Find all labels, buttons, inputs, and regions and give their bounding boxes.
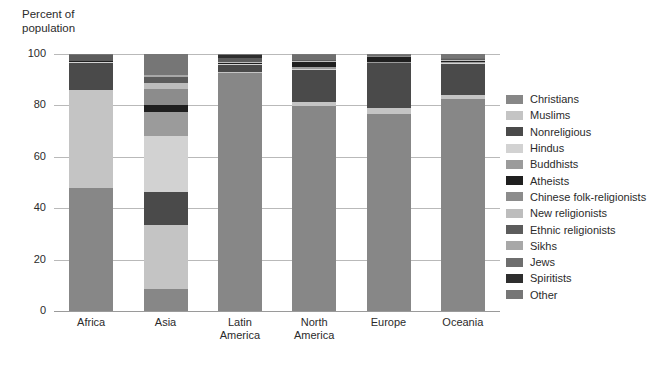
- legend-label: Ethnic religionists: [530, 224, 616, 236]
- legend-label: Christians: [530, 93, 579, 105]
- bar-group-europe[interactable]: Europe: [367, 54, 411, 311]
- legend-item-ethnic-religionists[interactable]: Ethnic religionists: [506, 221, 652, 237]
- x-axis-label: Europe: [367, 316, 411, 329]
- legend-item-christians[interactable]: Christians: [506, 91, 652, 107]
- bar-segment[interactable]: [144, 54, 188, 75]
- bar-segment[interactable]: [144, 89, 188, 105]
- bar-segment[interactable]: [144, 225, 188, 289]
- legend-label: Chinese folk-religionists: [530, 191, 646, 203]
- legend-swatch-icon: [506, 144, 523, 153]
- legend-swatch-icon: [506, 225, 523, 234]
- legend-swatch-icon: [506, 192, 523, 201]
- bar-segment[interactable]: [144, 105, 188, 112]
- legend-label: Hindus: [530, 142, 564, 154]
- legend-item-buddhists[interactable]: Buddhists: [506, 156, 652, 172]
- stacked-bar[interactable]: [218, 54, 262, 311]
- legend-item-sikhs[interactable]: Sikhs: [506, 238, 652, 254]
- legend-item-other[interactable]: Other: [506, 287, 652, 303]
- legend-item-chinese-folk-religionists[interactable]: Chinese folk-religionists: [506, 189, 652, 205]
- legend-item-nonreligious[interactable]: Nonreligious: [506, 124, 652, 140]
- y-tick-label-0: 0: [12, 304, 46, 316]
- legend-swatch-icon: [506, 241, 523, 250]
- bar-segment[interactable]: [218, 73, 262, 311]
- y-tick-label-80: 80: [12, 98, 46, 110]
- stacked-bar[interactable]: [441, 54, 485, 311]
- bar-segment[interactable]: [69, 90, 113, 188]
- bar-segment[interactable]: [367, 114, 411, 311]
- y-axis-title: Percent of population: [22, 8, 75, 35]
- bar-segment[interactable]: [441, 64, 485, 95]
- legend-item-spiritists[interactable]: Spiritists: [506, 270, 652, 286]
- legend-item-jews[interactable]: Jews: [506, 254, 652, 270]
- legend-swatch-icon: [506, 290, 523, 299]
- chart-legend: ChristiansMuslimsNonreligiousHindusBuddh…: [506, 91, 652, 303]
- bar-segment[interactable]: [292, 70, 336, 102]
- legend-item-muslims[interactable]: Muslims: [506, 107, 652, 123]
- bar-segment[interactable]: [144, 192, 188, 225]
- bar-segment[interactable]: [144, 136, 188, 191]
- y-tick-label-40: 40: [12, 201, 46, 213]
- legend-swatch-icon: [506, 176, 523, 185]
- x-axis-label: Asia: [144, 316, 188, 329]
- legend-label: Nonreligious: [530, 126, 591, 138]
- legend-label: Other: [530, 289, 558, 301]
- x-axis-label: Latin America: [218, 316, 262, 342]
- gridline-0: [54, 311, 500, 312]
- bar-group-north-america[interactable]: North America: [292, 54, 336, 311]
- stacked-bar[interactable]: [144, 54, 188, 311]
- legend-label: Spiritists: [530, 272, 572, 284]
- stacked-bar[interactable]: [292, 54, 336, 311]
- legend-label: Sikhs: [530, 240, 557, 252]
- legend-swatch-icon: [506, 95, 523, 104]
- bar-group-asia[interactable]: Asia: [144, 54, 188, 311]
- y-tick-label-100: 100: [12, 47, 46, 59]
- legend-swatch-icon: [506, 160, 523, 169]
- legend-label: Buddhists: [530, 158, 578, 170]
- bar-segment[interactable]: [69, 63, 113, 90]
- x-axis-label: Africa: [69, 316, 113, 329]
- stacked-bar[interactable]: [69, 54, 113, 311]
- legend-label: New religionists: [530, 207, 607, 219]
- bar-group-latin-america[interactable]: Latin America: [218, 54, 262, 311]
- legend-swatch-icon: [506, 111, 523, 120]
- chart-root: Percent of population AfricaAsiaLatin Am…: [0, 0, 654, 367]
- x-axis-label: North America: [292, 316, 336, 342]
- legend-item-new-religionists[interactable]: New religionists: [506, 205, 652, 221]
- legend-item-atheists[interactable]: Atheists: [506, 172, 652, 188]
- bar-segment[interactable]: [367, 63, 411, 108]
- bar-segment[interactable]: [218, 65, 262, 72]
- bar-group-africa[interactable]: Africa: [69, 54, 113, 311]
- legend-label: Atheists: [530, 175, 569, 187]
- bar-group-oceania[interactable]: Oceania: [441, 54, 485, 311]
- bar-segment[interactable]: [69, 188, 113, 311]
- bar-segment[interactable]: [441, 99, 485, 311]
- legend-swatch-icon: [506, 127, 523, 136]
- bar-segment[interactable]: [292, 106, 336, 311]
- bar-segment[interactable]: [144, 112, 188, 136]
- y-tick-label-20: 20: [12, 253, 46, 265]
- bar-segment[interactable]: [144, 289, 188, 311]
- legend-swatch-icon: [506, 274, 523, 283]
- legend-swatch-icon: [506, 209, 523, 218]
- bar-series-container: AfricaAsiaLatin AmericaNorth AmericaEuro…: [54, 54, 500, 311]
- legend-swatch-icon: [506, 258, 523, 267]
- y-tick-label-60: 60: [12, 150, 46, 162]
- stacked-bar[interactable]: [367, 54, 411, 311]
- legend-label: Jews: [530, 256, 555, 268]
- x-axis-label: Oceania: [441, 316, 485, 329]
- plot-area: AfricaAsiaLatin AmericaNorth AmericaEuro…: [54, 54, 500, 311]
- legend-item-hindus[interactable]: Hindus: [506, 140, 652, 156]
- legend-label: Muslims: [530, 109, 570, 121]
